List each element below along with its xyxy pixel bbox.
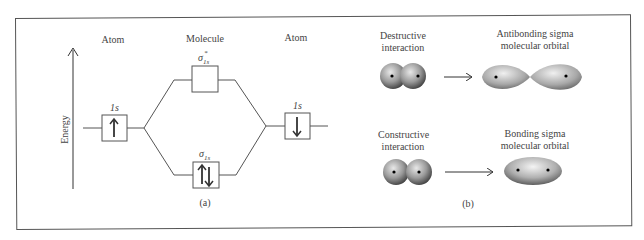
destructive-overlap-spheres bbox=[380, 63, 426, 89]
label-line: molecular orbital bbox=[490, 140, 580, 152]
right-atom-1s-orbital bbox=[266, 113, 328, 139]
panel-b-caption: (b) bbox=[458, 198, 478, 210]
right-1s-label: 1s bbox=[293, 100, 302, 111]
label-line: interaction bbox=[378, 42, 428, 54]
antibonding-sigma-orbital-shape bbox=[482, 64, 582, 90]
antibonding-label: Antibonding sigma molecular orbital bbox=[490, 28, 580, 52]
star-superscript: * bbox=[204, 49, 208, 57]
left-1s-label: 1s bbox=[110, 102, 119, 113]
label-line: Constructive bbox=[378, 129, 428, 141]
bonding-label: Bonding sigma molecular orbital bbox=[490, 128, 580, 152]
label-line: interaction bbox=[378, 141, 428, 153]
molecule-header: Molecule bbox=[180, 33, 230, 45]
label-line: Antibonding sigma bbox=[490, 28, 580, 40]
energy-axis-label: Energy bbox=[59, 110, 70, 150]
label-line: Destructive bbox=[378, 30, 428, 42]
left-atom-1s-orbital bbox=[83, 115, 144, 141]
label-line: Bonding sigma bbox=[490, 128, 580, 140]
label-line: molecular orbital bbox=[490, 40, 580, 52]
bonding-orbital-label: σ1s bbox=[199, 148, 210, 159]
left-atom-header: Atom bbox=[98, 34, 128, 46]
panel-a-caption: (a) bbox=[195, 197, 215, 209]
antibonding-orbital-label: σ*1s bbox=[198, 52, 209, 63]
constructive-overlap-spheres bbox=[383, 159, 432, 185]
destructive-label: Destructive interaction bbox=[378, 30, 428, 54]
constructive-label: Constructive interaction bbox=[378, 129, 428, 153]
bonding-sigma-orbital-shape bbox=[504, 157, 562, 185]
antibonding-orbital bbox=[144, 66, 266, 128]
energy-axis bbox=[68, 48, 78, 189]
subscript-1s: 1s bbox=[203, 58, 209, 66]
subscript-1s: 1s bbox=[204, 154, 210, 162]
right-atom-header: Atom bbox=[281, 32, 311, 44]
